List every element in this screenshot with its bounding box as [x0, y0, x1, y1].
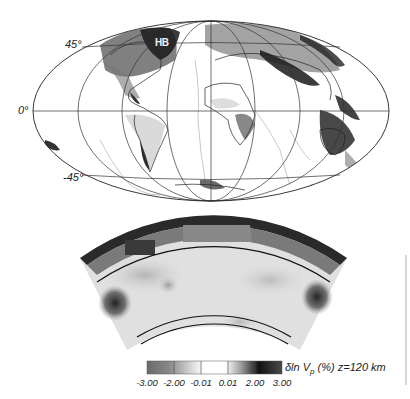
page-edge-line	[405, 255, 407, 385]
lat-label-45n: 45°	[65, 38, 82, 50]
lat-label-0: 0°	[18, 104, 29, 116]
cross-section	[80, 215, 347, 350]
world-map	[33, 21, 389, 201]
lat-label-45s: -45°	[63, 171, 83, 183]
colorbar-tick: -0.01	[190, 377, 212, 388]
colorbar-tick: 3.00	[273, 377, 292, 388]
colorbar-tick: -3.00	[136, 377, 158, 388]
tomography-figure: 45° 0° -45° HB -3.00 -2.00 -0.01 0.01 2.…	[0, 0, 410, 399]
colorbar-tick: 2.00	[246, 377, 265, 388]
colorbar-title-suffix: (%) z=120 km	[315, 361, 386, 373]
colorbar-tick: 0.01	[219, 377, 238, 388]
colorbar-title: δln Vp (%) z=120 km	[285, 361, 386, 376]
colorbar-title-prefix: δln V	[285, 361, 310, 373]
region-label-hudson-bay: HB	[155, 37, 168, 48]
colorbar	[147, 361, 282, 374]
figure-graphics	[0, 0, 410, 399]
colorbar-tick: -2.00	[163, 377, 185, 388]
